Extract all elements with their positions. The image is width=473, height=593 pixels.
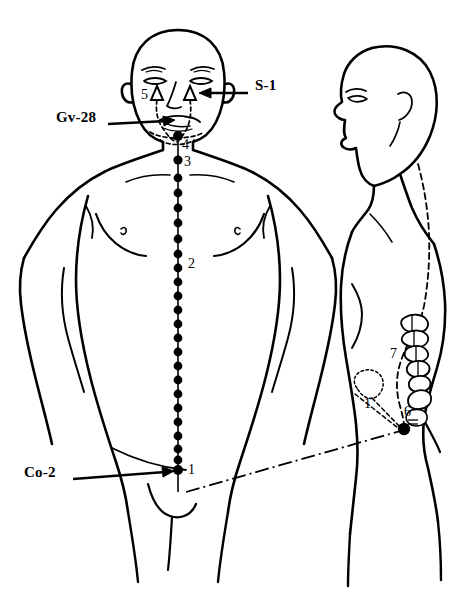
point-label-1-side: 1 bbox=[364, 397, 371, 411]
point-label-1-front: 1 bbox=[188, 463, 195, 477]
point-label-6: 6 bbox=[404, 405, 411, 419]
side-bladder-leader-lines bbox=[355, 394, 400, 428]
side-body-outline bbox=[334, 46, 445, 586]
callout-label-gv28: Gv-28 bbox=[56, 110, 96, 125]
point-label-4: 4 bbox=[182, 138, 189, 152]
point-label-5: 5 bbox=[141, 88, 148, 102]
front-midline-channel bbox=[173, 131, 183, 492]
triangle-marker-left bbox=[151, 86, 163, 100]
callout-label-co2: Co-2 bbox=[24, 465, 56, 480]
side-bladder-outline bbox=[354, 370, 383, 399]
diagram-canvas: S-1 Gv-28 Co-2 5 4 3 2 1 7 1 6 bbox=[0, 0, 473, 593]
callout-arrow-co2 bbox=[73, 467, 174, 479]
callout-arrows bbox=[73, 88, 248, 479]
callout-label-s1: S-1 bbox=[255, 78, 276, 93]
side-coccyx-point-dot bbox=[398, 423, 410, 435]
point-label-3: 3 bbox=[184, 155, 191, 169]
view-connector-line bbox=[186, 430, 404, 492]
point-label-2: 2 bbox=[188, 257, 195, 271]
anatomy-illustration bbox=[0, 0, 473, 593]
triangle-marker-right bbox=[184, 86, 196, 100]
point-label-7: 7 bbox=[390, 347, 397, 361]
